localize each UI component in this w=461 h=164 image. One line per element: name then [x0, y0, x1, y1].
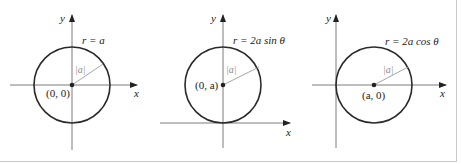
x-axis-label: x [133, 87, 139, 99]
center-label: (0, 0) [46, 87, 70, 100]
center-label: (a, 0) [362, 89, 386, 102]
panel-r-equals-2a-sin-theta: y x r = 2a sin θ |a| (0, a) [160, 12, 291, 148]
center-label: (0, a) [195, 79, 219, 92]
center-point [221, 83, 226, 88]
y-axis-label: y [325, 12, 331, 24]
y-axis-label: y [210, 12, 216, 24]
panel-r-equals-2a-cos-theta: y x r = 2a cos θ |a| (a, 0) [312, 12, 446, 148]
radius-label: |a| [226, 64, 237, 75]
equation-label: r = a [82, 34, 105, 46]
polar-circles-diagram: y x r = a |a| (0, 0) y x r = 2a sin θ |a… [0, 0, 461, 164]
y-axis-label: y [59, 12, 65, 24]
x-axis-label: x [439, 87, 445, 99]
center-point [372, 83, 377, 88]
equation-label: r = 2a cos θ [385, 35, 439, 47]
x-axis-label: x [285, 126, 291, 138]
radius-label: |a| [75, 64, 86, 75]
panel-r-equals-a: y x r = a |a| (0, 0) [10, 12, 139, 150]
radius-label: |a| [383, 64, 394, 75]
center-point [70, 83, 75, 88]
equation-label: r = 2a sin θ [233, 34, 286, 46]
